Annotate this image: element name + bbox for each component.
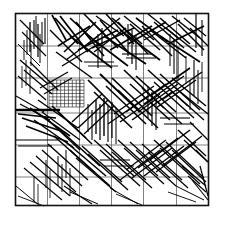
fracture-network-figure: Square model domain discretized by a 6 b… [0,0,225,225]
fracture-network-canvas [0,0,225,225]
